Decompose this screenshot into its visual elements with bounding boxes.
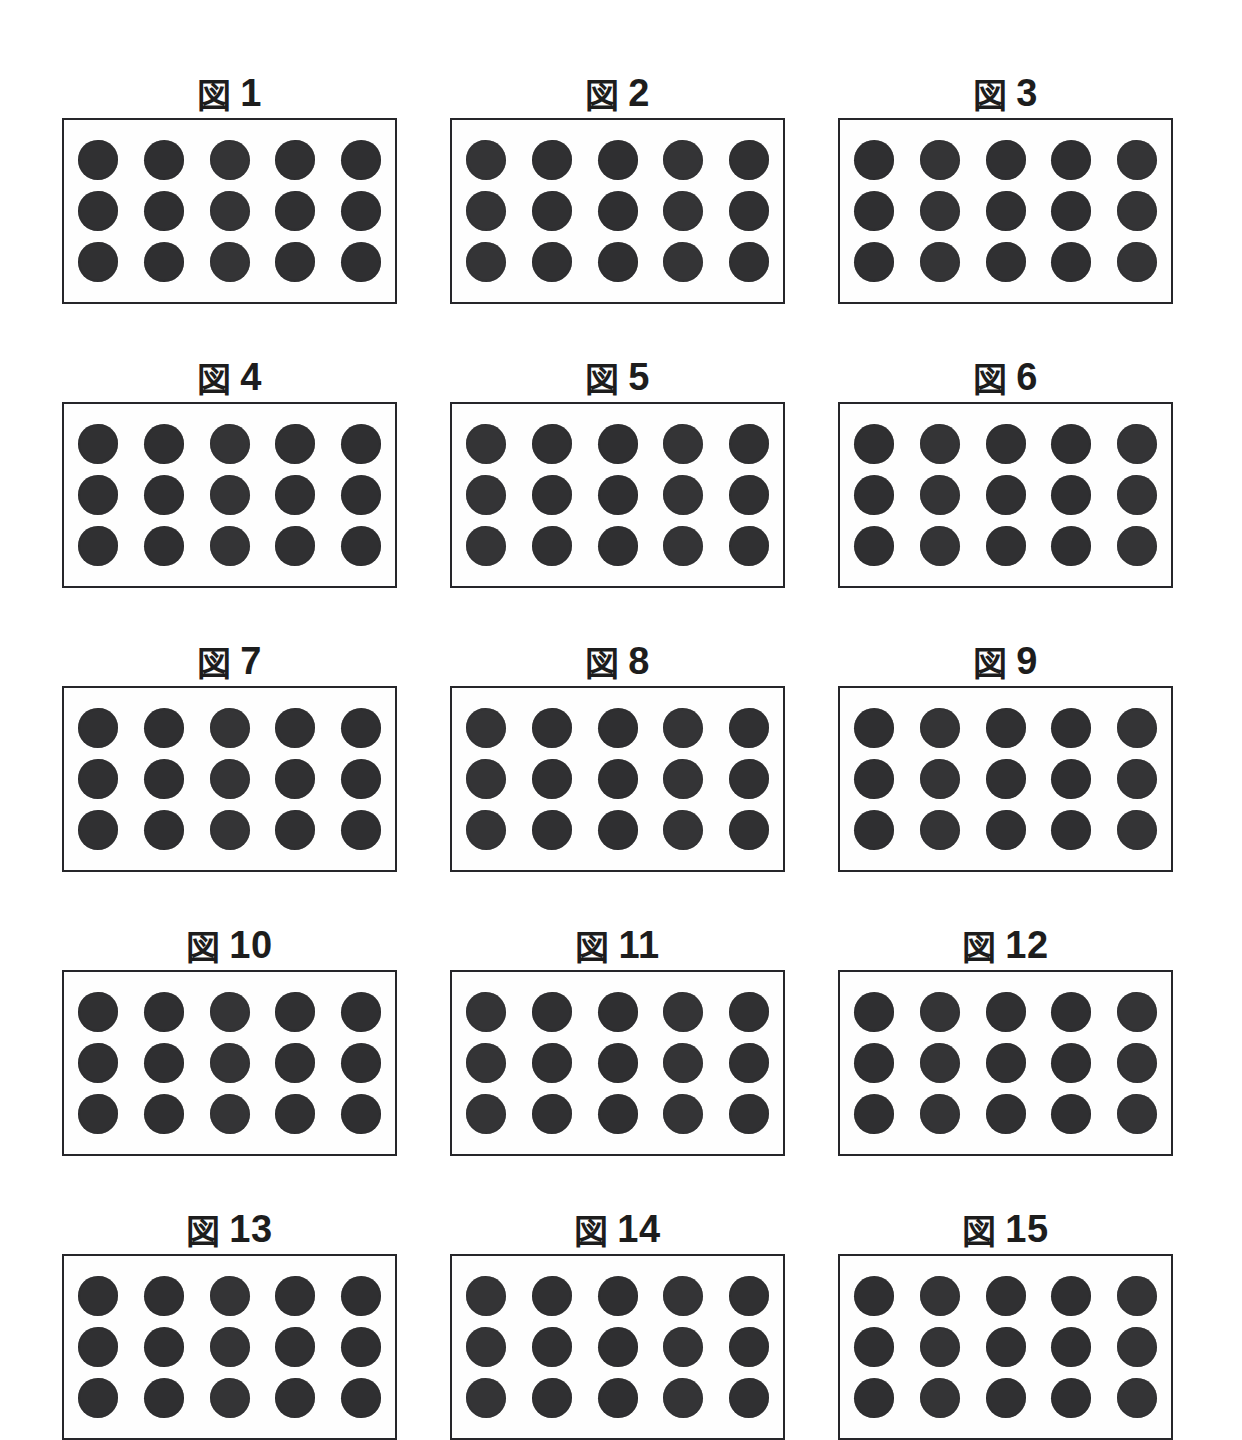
dot-marker [854,810,894,850]
figure-kanji-label: 図 [574,1215,608,1249]
dot-marker [466,1378,506,1418]
dot-marker [275,191,315,231]
dot-marker [663,810,703,850]
dot-marker [854,1327,894,1367]
dot-marker [532,1276,572,1316]
dot-marker [598,708,638,748]
dot-marker [341,759,381,799]
dot-marker [341,1094,381,1134]
dot-marker [598,526,638,566]
dot-marker [1051,1043,1091,1083]
figure-kanji-label: 図 [973,647,1007,681]
figure-kanji-label: 図 [973,363,1007,397]
dot-marker [341,140,381,180]
dot-marker [986,1378,1026,1418]
dot-marker [78,242,118,282]
dot-row [466,1326,769,1368]
figure-panel: 図9 [838,640,1173,872]
dot-row [78,758,381,800]
figure-caption: 図15 [838,1208,1173,1254]
dot-marker [729,1378,769,1418]
dot-marker [1051,191,1091,231]
dot-marker [532,140,572,180]
dot-marker [1117,708,1157,748]
dot-marker [466,810,506,850]
dot-marker [854,1378,894,1418]
dot-marker [210,191,250,231]
figure-caption: 図12 [838,924,1173,970]
dot-marker [466,526,506,566]
dot-marker [275,424,315,464]
figure-caption: 図10 [62,924,397,970]
figure-caption: 図8 [450,640,785,686]
dot-marker [729,1094,769,1134]
dot-marker [663,1276,703,1316]
figure-panel: 図3 [838,72,1173,304]
dot-row [466,1377,769,1419]
dot-row [78,525,381,567]
dot-marker [986,759,1026,799]
dot-marker [854,1276,894,1316]
dot-marker [144,810,184,850]
figure-box [838,118,1173,304]
dot-marker [210,759,250,799]
dot-marker [210,140,250,180]
figure-box [838,1254,1173,1440]
dot-row [466,139,769,181]
figure-caption: 図1 [62,72,397,118]
dot-marker [78,1043,118,1083]
dot-marker [920,1094,960,1134]
dot-marker [78,708,118,748]
dot-row [854,423,1157,465]
dot-row [466,991,769,1033]
figure-caption: 図13 [62,1208,397,1254]
figure-number-label: 14 [617,1210,660,1248]
dot-marker [1117,1327,1157,1367]
figure-caption: 図7 [62,640,397,686]
figure-kanji-label: 図 [585,647,619,681]
dot-marker [144,1043,184,1083]
dot-marker [598,1094,638,1134]
dot-row [854,525,1157,567]
figure-caption: 図6 [838,356,1173,402]
dot-marker [920,1378,960,1418]
figure-number-label: 1 [240,74,262,112]
dot-row [854,991,1157,1033]
dot-marker [663,424,703,464]
dot-marker [210,1276,250,1316]
dot-marker [663,140,703,180]
dot-marker [78,140,118,180]
figure-caption: 図2 [450,72,785,118]
dot-marker [1051,1276,1091,1316]
dot-marker [275,759,315,799]
dot-marker [663,992,703,1032]
dot-marker [854,1043,894,1083]
dot-marker [598,475,638,515]
figure-panel: 図10 [62,924,397,1156]
figure-number-label: 2 [628,74,650,112]
dot-marker [854,475,894,515]
dot-marker [663,242,703,282]
dot-marker [598,810,638,850]
dot-row [854,190,1157,232]
dot-row [854,707,1157,749]
dot-marker [729,1276,769,1316]
figure-panel: 図11 [450,924,785,1156]
dot-marker [1051,708,1091,748]
dot-marker [986,242,1026,282]
dot-marker [144,424,184,464]
figure-box [62,686,397,872]
dot-marker [144,242,184,282]
dot-marker [986,1094,1026,1134]
dot-marker [341,424,381,464]
dot-marker [532,1327,572,1367]
dot-marker [532,1043,572,1083]
dot-marker [144,1276,184,1316]
figure-kanji-label: 図 [186,931,220,965]
figure-number-label: 9 [1016,642,1038,680]
dot-marker [210,1043,250,1083]
figure-panel: 図8 [450,640,785,872]
figure-number-label: 10 [229,926,272,964]
dot-marker [598,140,638,180]
